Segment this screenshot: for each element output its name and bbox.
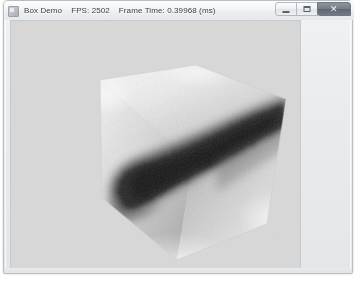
window-bottom-chrome (5, 268, 351, 272)
maximize-icon (304, 6, 311, 12)
minimize-icon (283, 11, 290, 13)
fps-readout: FPS: 2502 (71, 6, 110, 15)
window-controls (276, 2, 351, 17)
maximize-button[interactable] (296, 2, 318, 16)
screenshot-root: Box DemoFPS: 2502Frame Time: 0.39968 (ms… (0, 0, 361, 290)
page-title: Box Demo (24, 6, 62, 15)
window-titlebar[interactable]: Box DemoFPS: 2502Frame Time: 0.39968 (ms… (4, 1, 354, 20)
frame-time-readout: Frame Time: 0.39968 (ms) (119, 6, 216, 15)
close-icon (330, 5, 339, 14)
cube-canvas (11, 21, 301, 269)
app-window-icon (8, 6, 19, 17)
minimize-button[interactable] (275, 2, 297, 16)
render-client-area[interactable] (10, 20, 301, 269)
close-button[interactable] (317, 2, 351, 16)
window-title-text: Box DemoFPS: 2502Frame Time: 0.39968 (ms… (24, 6, 216, 16)
application-window: Box DemoFPS: 2502Frame Time: 0.39968 (ms… (3, 0, 353, 274)
